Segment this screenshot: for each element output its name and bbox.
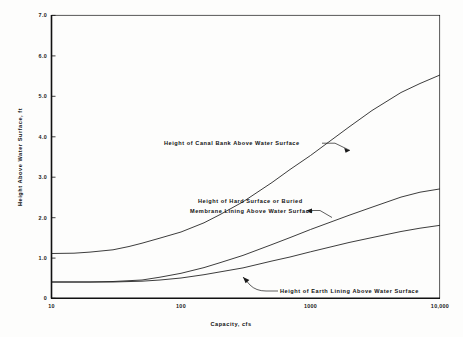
y-tick-label-5: 5.0 xyxy=(39,93,47,99)
x-axis-title: Capacity, cfs xyxy=(210,321,251,327)
axis-frame xyxy=(51,15,440,299)
y-axis-tick-labels: 7.0 6.0 5.0 4.0 3.0 2.0 1.0 0 xyxy=(39,12,47,301)
y-tick-label-3: 3.0 xyxy=(39,174,47,180)
annotation-earth-lining-label: Height of Earth Lining Above Water Surfa… xyxy=(280,288,419,294)
x-tick-label-10: 10 xyxy=(48,303,55,309)
x-tick-label-100: 100 xyxy=(176,303,186,309)
annotation-canal-bank: Height of Canal Bank Above Water Surface xyxy=(164,140,350,153)
annotation-earth-lining-arrowhead xyxy=(243,277,249,283)
annotation-hard-surface-line-1: Height of Hard Surface or Buried xyxy=(198,198,303,204)
annotation-hard-surface-line-2: Membrane Lining Above Water Surface xyxy=(190,208,313,214)
y-tick-label-7: 7.0 xyxy=(39,12,47,18)
x-axis-tick-labels: 10 100 1000 10,000 xyxy=(48,303,449,309)
y-tick-label-1: 1.0 xyxy=(39,255,47,261)
curve-earth-lining xyxy=(52,225,440,282)
y-tick-label-6: 6.0 xyxy=(39,53,47,59)
annotation-earth-lining-leader xyxy=(243,277,278,291)
y-tick-label-2: 2.0 xyxy=(39,215,47,221)
y-tick-label-4: 4.0 xyxy=(39,134,47,140)
chart-canvas: 7.0 6.0 5.0 4.0 3.0 2.0 1.0 0 10 100 100… xyxy=(0,0,463,337)
x-tick-label-1000: 1000 xyxy=(304,303,317,309)
y-tick-label-0: 0 xyxy=(44,295,47,301)
annotation-canal-bank-label: Height of Canal Bank Above Water Surface xyxy=(164,140,300,146)
curve-canal-bank xyxy=(52,75,440,253)
chart-figure: 7.0 6.0 5.0 4.0 3.0 2.0 1.0 0 10 100 100… xyxy=(0,0,463,337)
x-tick-label-10000: 10,000 xyxy=(431,303,449,309)
y-axis-title: Height Above Water Surface, ft xyxy=(17,108,23,206)
annotation-earth-lining: Height of Earth Lining Above Water Surfa… xyxy=(243,277,419,294)
annotation-hard-surface-membrane: Height of Hard Surface or Buried Membran… xyxy=(190,198,332,218)
